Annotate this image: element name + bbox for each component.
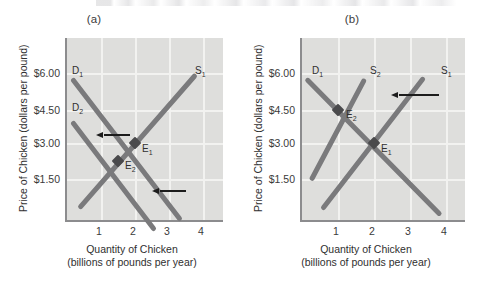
equilibrium-1-label-text: E (381, 143, 388, 154)
supply-curve-1-label-text: S (195, 65, 202, 76)
x-tick-4: 4 (441, 225, 447, 237)
equilibrium-2-label-text: E (125, 160, 132, 171)
equilibrium-1-label-sub: 1 (149, 149, 153, 156)
demand-shift-arrow-upper (104, 134, 130, 136)
equilibrium-2-label-sub: 2 (353, 115, 357, 122)
y-tick-6-00: $6.00 (34, 67, 60, 79)
x-tick-3: 3 (164, 225, 170, 237)
equilibrium-2-label-text: E (346, 109, 353, 120)
x-axis-title-line-2: (billions of pounds per year) (246, 256, 480, 269)
y-axis-tick-labels: $6.00 $4.50 $3.00 $1.50 (235, 38, 295, 222)
x-tick-1: 1 (333, 225, 339, 237)
demand-curve-2-label: D2 (72, 102, 83, 115)
y-axis-tick-labels: $6.00 $4.50 $3.00 $1.50 (0, 38, 60, 222)
plot-area: D1 D2 S1 E1 E2 (65, 38, 223, 222)
demand-shift-panel: (a) Price of Chicken (dollars per pound)… (0, 0, 240, 285)
demand-curve-1-label: D1 (312, 65, 323, 78)
x-axis-title-line-1: Quantity of Chicken (246, 243, 480, 256)
supply-curve-1-label-sub: 1 (202, 71, 206, 78)
demand-shift-arrow-lower (160, 190, 186, 192)
x-axis-title: Quantity of Chicken (billions of pounds … (12, 243, 252, 269)
y-tick-1-50: $1.50 (34, 173, 60, 185)
equilibrium-2-label-sub: 2 (132, 166, 136, 173)
demand-curve-1-label-sub: 1 (79, 71, 83, 78)
x-tick-1: 1 (96, 225, 102, 237)
demand-curve-2-label-sub: 2 (79, 108, 83, 115)
supply-curve-1-label-sub: 1 (448, 71, 452, 78)
demand-curve-1-label-sub: 1 (319, 71, 323, 78)
y-tick-3-00: $3.00 (269, 137, 295, 149)
gridline-vertical-3 (410, 38, 412, 220)
supply-curve-2-label: S2 (370, 65, 381, 78)
demand-curve-1-label: D1 (72, 65, 83, 78)
panel-a-label: (a) (0, 13, 214, 25)
x-axis-title: Quantity of Chicken (billions of pounds … (246, 243, 480, 269)
gridline-horizontal-1-50 (302, 179, 465, 181)
gridline-horizontal-1-50 (67, 179, 223, 181)
equilibrium-2-label: E2 (346, 109, 357, 122)
supply-curve-1-label-text: S (441, 65, 448, 76)
equilibrium-1-label-text: E (142, 143, 149, 154)
gridline-vertical-3 (169, 38, 171, 220)
y-tick-6-00: $6.00 (269, 67, 295, 79)
y-tick-3-00: $3.00 (34, 137, 60, 149)
equilibrium-2-label: E2 (125, 160, 136, 173)
equilibrium-1-label: E1 (381, 143, 392, 156)
gridline-vertical-2 (135, 38, 137, 220)
y-tick-1-50: $1.50 (269, 173, 295, 185)
x-axis-title-line-1: Quantity of Chicken (12, 243, 252, 256)
gridline-horizontal-4-50 (67, 110, 223, 112)
x-tick-3: 3 (405, 225, 411, 237)
supply-curve-2-label-text: S (370, 65, 377, 76)
equilibrium-1-label-sub: 1 (388, 149, 392, 156)
equilibrium-1-label: E1 (142, 143, 153, 156)
gridline-horizontal-4-50 (302, 110, 465, 112)
supply-shift-panel: (b) Price of Chicken (dollars per pound)… (240, 0, 480, 285)
plot-area: D1 S2 S1 E1 E2 (300, 38, 465, 222)
gridline-vertical-1 (101, 38, 103, 220)
x-tick-2: 2 (130, 225, 136, 237)
supply-shift-arrow (399, 94, 439, 96)
supply-curve-1-label: S1 (195, 65, 206, 78)
y-tick-4-50: $4.50 (34, 104, 60, 116)
y-tick-4-50: $4.50 (269, 104, 295, 116)
x-tick-2: 2 (369, 225, 375, 237)
x-axis-title-line-2: (billions of pounds per year) (12, 256, 252, 269)
supply-curve-1-label: S1 (441, 65, 452, 78)
x-tick-4: 4 (198, 225, 204, 237)
panel-b-label: (b) (232, 13, 472, 25)
supply-curve-2-label-sub: 2 (377, 71, 381, 78)
